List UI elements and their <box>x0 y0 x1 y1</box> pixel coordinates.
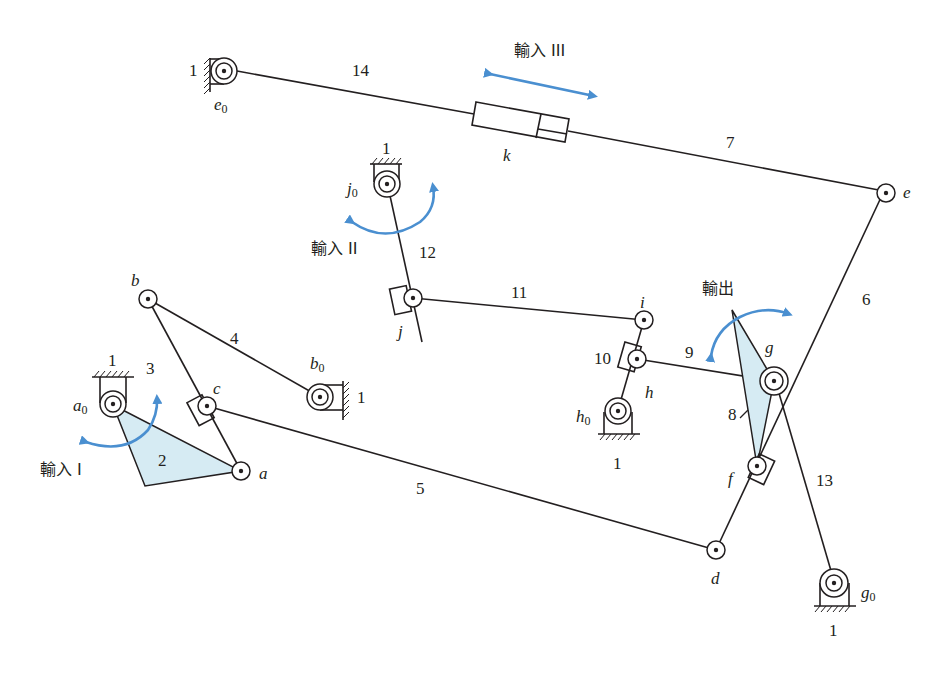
ground-support-g0 <box>814 569 856 612</box>
label-link-1-h0: 1 <box>613 455 622 472</box>
label-joint-c: c <box>213 380 221 397</box>
label-link-1-g0: 1 <box>829 622 838 639</box>
ground-support-b0 <box>307 381 349 420</box>
label-joint-h0: h0 <box>576 408 591 427</box>
input3-linear-arrow-icon <box>490 74 594 96</box>
label-joint-a0: a0 <box>73 397 88 416</box>
ground-support-e0 <box>204 58 237 94</box>
label-link-4: 4 <box>230 330 239 347</box>
label-joint-b0: b0 <box>310 355 325 374</box>
label-link-10: 10 <box>594 350 611 367</box>
label-link-8: 8 <box>728 406 737 423</box>
label-joint-g0: g0 <box>861 584 876 603</box>
label-link-1-b0: 1 <box>357 389 366 406</box>
label-link-7: 7 <box>726 134 735 151</box>
label-joint-k: k <box>503 147 511 164</box>
label-link-6: 6 <box>862 291 871 308</box>
label-joint-i: i <box>640 294 645 311</box>
label-link-14: 14 <box>352 62 369 79</box>
label-input3: 輸入 III <box>514 43 565 59</box>
joint-i <box>635 311 653 329</box>
joint-a <box>232 462 250 480</box>
link-2-input-crank <box>113 405 241 486</box>
link-11 <box>413 298 644 320</box>
label-link-3: 3 <box>146 360 155 377</box>
label-link-13: 13 <box>816 472 833 489</box>
label-link-5: 5 <box>416 480 425 497</box>
label-joint-e0: e0 <box>214 96 228 115</box>
joint-h <box>628 350 646 368</box>
joint-f <box>748 457 766 475</box>
joint-g <box>760 367 788 395</box>
label-link-1-a0: 1 <box>108 352 117 369</box>
cylinder-k <box>472 102 569 142</box>
label-joint-g: g <box>765 339 774 356</box>
label-link-11: 11 <box>511 284 527 301</box>
link-12 <box>387 182 422 342</box>
linkage-diagram <box>0 0 951 673</box>
label-input1: 輸入 I <box>40 462 82 478</box>
label-joint-e: e <box>903 184 911 201</box>
joint-e <box>877 184 895 202</box>
joint-c <box>198 397 216 415</box>
label-input2: 輸入 II <box>311 241 358 257</box>
ground-support-h0 <box>598 398 640 440</box>
label-joint-b: b <box>131 272 140 289</box>
label-joint-f: f <box>728 470 733 487</box>
label-joint-j: j <box>398 323 403 340</box>
label-joint-d: d <box>711 570 720 587</box>
label-link-9: 9 <box>685 344 694 361</box>
label-joint-j0: j0 <box>347 180 358 199</box>
label-output: 輸出 <box>702 281 734 297</box>
ground-support-a0 <box>92 371 134 417</box>
ground-support-j0 <box>370 158 402 197</box>
label-joint-a: a <box>259 465 268 482</box>
label-link-2: 2 <box>158 452 167 469</box>
joint-d <box>707 541 725 559</box>
label-link-1-j0: 1 <box>382 140 391 157</box>
label-joint-h: h <box>645 384 654 401</box>
label-link-12: 12 <box>419 244 436 261</box>
label-link-1-e0: 1 <box>189 62 198 79</box>
link-5 <box>207 406 716 550</box>
joint-j <box>404 289 422 307</box>
joint-b <box>139 290 157 308</box>
